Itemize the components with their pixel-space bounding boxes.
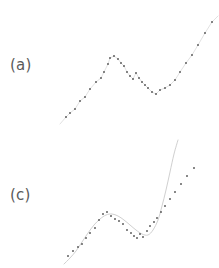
data-point xyxy=(65,116,67,118)
data-point xyxy=(160,211,162,213)
data-point xyxy=(117,58,119,60)
data-point xyxy=(155,93,157,95)
panel-a-line-group xyxy=(60,16,218,124)
data-point xyxy=(81,243,83,245)
data-point xyxy=(147,87,149,89)
data-point xyxy=(100,77,102,79)
data-point xyxy=(110,215,112,217)
panel-a-marker-group xyxy=(65,21,213,118)
data-point xyxy=(113,55,115,57)
data-point xyxy=(180,183,182,185)
panel-c-plot xyxy=(0,134,219,268)
connector-line xyxy=(60,16,218,124)
data-point xyxy=(142,236,144,238)
data-point xyxy=(164,205,166,207)
data-point xyxy=(74,108,76,110)
data-point xyxy=(89,232,91,234)
data-point xyxy=(193,167,195,169)
data-point xyxy=(169,198,171,200)
data-point xyxy=(79,100,81,102)
data-point xyxy=(130,232,132,234)
data-point xyxy=(197,44,199,46)
panel-c: (c) xyxy=(0,134,219,268)
data-point xyxy=(135,72,137,74)
panel-a: (a) xyxy=(0,0,219,134)
data-point xyxy=(95,81,97,83)
fit-curve xyxy=(64,140,178,264)
data-point xyxy=(174,191,176,193)
data-point xyxy=(102,213,104,215)
data-point xyxy=(103,71,105,73)
data-point xyxy=(120,62,122,64)
data-point xyxy=(77,246,79,248)
data-point xyxy=(132,78,134,80)
data-point xyxy=(129,75,131,77)
data-point xyxy=(123,65,125,67)
data-point xyxy=(191,54,193,56)
data-point xyxy=(174,79,176,81)
data-point xyxy=(153,221,155,223)
data-point xyxy=(114,218,116,220)
data-point xyxy=(98,219,100,221)
data-point xyxy=(204,32,206,34)
panel-c-curve-group xyxy=(64,140,178,264)
data-point xyxy=(144,84,146,86)
data-point xyxy=(122,223,124,225)
data-point xyxy=(138,77,140,79)
data-point xyxy=(146,230,148,232)
data-point xyxy=(118,220,120,222)
data-point xyxy=(179,71,181,73)
data-point xyxy=(159,89,161,91)
data-point xyxy=(126,229,128,231)
data-point xyxy=(72,250,74,252)
data-point xyxy=(94,227,96,229)
data-point xyxy=(69,112,71,114)
data-point xyxy=(185,62,187,64)
data-point xyxy=(136,237,138,239)
data-point xyxy=(211,21,213,23)
data-point xyxy=(139,233,141,235)
data-point xyxy=(85,237,87,239)
panel-c-marker-group xyxy=(67,167,195,257)
data-point xyxy=(109,57,111,59)
data-point xyxy=(164,87,166,89)
data-point xyxy=(106,211,108,213)
data-point xyxy=(84,96,86,98)
panel-a-plot xyxy=(0,0,219,134)
data-point xyxy=(151,91,153,93)
data-point xyxy=(89,88,91,90)
data-point xyxy=(133,235,135,237)
data-point xyxy=(156,217,158,219)
data-point xyxy=(186,175,188,177)
data-point xyxy=(149,225,151,227)
data-point xyxy=(67,255,69,257)
data-point xyxy=(141,81,143,83)
data-point xyxy=(169,84,171,86)
figure-canvas: (a) (c) xyxy=(0,0,219,268)
data-point xyxy=(126,71,128,73)
data-point xyxy=(107,63,109,65)
